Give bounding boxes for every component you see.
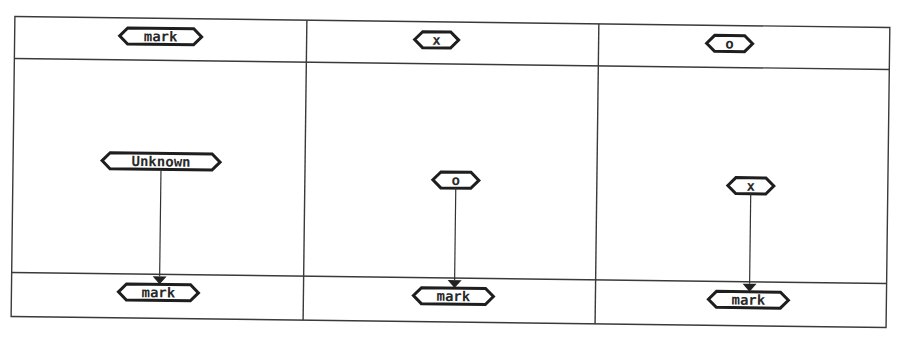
column-divider-2 (595, 24, 599, 324)
source-node-col1[interactable]: Unknown (102, 153, 220, 170)
footer-row-divider (12, 273, 887, 284)
source-node-col2[interactable]: o (433, 172, 479, 189)
target-node-col3[interactable]: mark (708, 291, 788, 308)
source-node-col3[interactable]: x (728, 177, 774, 194)
header-node-label: mark (144, 28, 178, 44)
edge-arrow-col3 (750, 194, 751, 284)
column-divider-1 (303, 20, 307, 320)
source-node-label: Unknown (131, 153, 190, 170)
target-node-label: mark (141, 284, 175, 300)
header-node-col2[interactable]: x (415, 32, 459, 49)
header-node-col1[interactable]: mark (120, 28, 202, 45)
header-row-divider (14, 59, 889, 70)
column-3: o x mark (703, 35, 791, 308)
header-node-label: o (725, 35, 734, 51)
edge-arrow-col2 (455, 188, 456, 280)
column-1: mark Unknown mark (100, 28, 221, 301)
target-node-col1[interactable]: mark (118, 284, 198, 301)
edge-arrow-col1 (160, 169, 161, 276)
header-node-label: x (432, 32, 441, 48)
target-node-col2[interactable]: mark (413, 288, 493, 305)
header-node-col3[interactable]: o (707, 35, 753, 52)
diagram-canvas: mark Unknown mark x o (0, 0, 900, 339)
target-node-label: mark (436, 288, 470, 304)
source-node-label: x (747, 178, 756, 194)
target-node-label: mark (731, 292, 765, 308)
column-2: x o mark (411, 32, 496, 305)
source-node-label: o (452, 172, 461, 188)
